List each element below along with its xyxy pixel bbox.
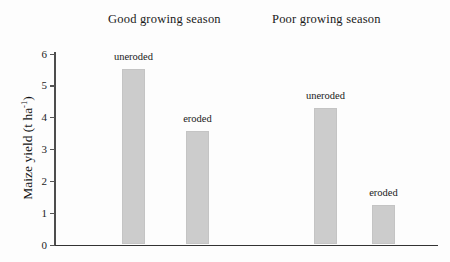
x-axis-line (54, 245, 438, 247)
bar-label-3: eroded (369, 187, 398, 198)
y-tick-label-2: 2 (42, 175, 48, 186)
y-tick-mark-6 (50, 54, 55, 55)
y-tick-mark-4 (50, 117, 55, 118)
bar-label-2: uneroded (306, 90, 345, 101)
y-tick-mark-3 (50, 149, 55, 150)
y-tick-mark-2 (50, 181, 55, 182)
y-tick-mark-1 (50, 213, 55, 214)
bar-1-eroded[interactable] (186, 131, 209, 244)
y-axis-title-exponent: -1 (19, 101, 29, 108)
y-axis-title-main: Maize yield (t ha (20, 108, 35, 200)
y-tick-label-5: 5 (42, 80, 48, 91)
y-axis-title: Maize yield (t ha-1) (20, 68, 36, 228)
bar-2-uneroded[interactable] (314, 108, 337, 245)
y-tick-label-3: 3 (42, 144, 48, 155)
bar-label-1: eroded (183, 113, 212, 124)
y-tick-mark-5 (50, 85, 55, 86)
y-tick-label-1: 1 (42, 207, 48, 218)
y-tick-label-4: 4 (42, 112, 48, 123)
y-axis-title-close: ) (20, 96, 35, 101)
y-tick-label-6: 6 (42, 48, 48, 59)
chart-figure: Good growing season Poor growing season … (0, 0, 450, 262)
bar-3-eroded[interactable] (372, 205, 395, 245)
y-tick-label-0: 0 (42, 239, 48, 250)
plot-area: 0123456 unerodederodedunerodederoded (54, 52, 438, 246)
group-title-poor-growing-season: Poor growing season (272, 12, 381, 27)
bar-0-uneroded[interactable] (122, 69, 145, 244)
y-tick-mark-0 (50, 245, 55, 246)
bar-label-0: uneroded (114, 51, 153, 62)
group-title-good-growing-season: Good growing season (108, 12, 221, 27)
